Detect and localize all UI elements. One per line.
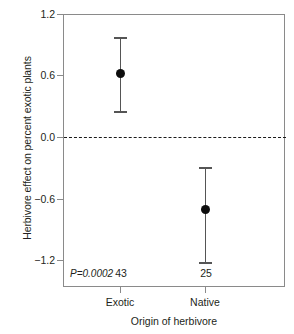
y-tick-label: 0.0 xyxy=(13,132,55,142)
zero-reference-line xyxy=(64,137,286,138)
error-bar-cap-lower-exotic xyxy=(114,111,127,113)
x-tick-mark xyxy=(120,287,121,293)
y-tick-label: −1.2 xyxy=(13,255,55,265)
x-tick-label-native: Native xyxy=(165,296,245,308)
y-axis-title: Herbivore effect on percent exotic plant… xyxy=(18,8,36,288)
data-point-exotic xyxy=(116,69,125,78)
y-tick-label: −0.6 xyxy=(13,194,55,204)
data-point-native xyxy=(201,205,210,214)
sample-size-native: 25 xyxy=(181,267,231,279)
x-tick-mark xyxy=(205,287,206,293)
error-bar-cap-upper-native xyxy=(199,167,212,169)
plot-area: P=0.0002 43 25 xyxy=(63,14,285,287)
y-tick-label: 0.6 xyxy=(13,70,55,80)
error-bar-cap-upper-exotic xyxy=(114,37,127,39)
y-tick-label: 1.2 xyxy=(13,9,55,19)
error-bar-chart: Herbivore effect on percent exotic plant… xyxy=(0,0,294,334)
error-bar-cap-lower-native xyxy=(199,262,212,264)
x-axis-title: Origin of herbivore xyxy=(63,315,285,327)
x-tick-label-exotic: Exotic xyxy=(80,296,160,308)
error-bar-stem-native xyxy=(205,168,206,263)
sample-size-exotic: 43 xyxy=(96,267,146,279)
